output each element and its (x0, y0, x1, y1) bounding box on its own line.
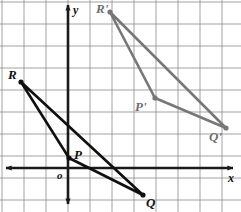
vertex-dot (140, 192, 145, 197)
triangle-pqr-image (110, 12, 226, 128)
shape-lines (18, 9, 228, 197)
vertex-label-r: R (8, 68, 17, 81)
vertex-dot (152, 95, 157, 100)
figure-canvas (0, 0, 241, 212)
vertex-dot (223, 125, 228, 130)
vertex-label-r-prime: R' (96, 2, 108, 15)
vertex-label-p: P (74, 148, 82, 161)
vertex-label-p-prime: P' (135, 100, 147, 113)
vertex-dot (18, 79, 23, 84)
vertex-label-q-prime: Q' (209, 130, 222, 143)
y-axis-label: y (73, 4, 78, 16)
x-axis-label: x (228, 172, 234, 184)
geometry-figure: P Q R P' Q' R' x y o (0, 0, 241, 212)
vertex-label-q: Q (146, 196, 155, 209)
origin-label: o (57, 170, 63, 181)
vertex-dot (66, 155, 71, 160)
